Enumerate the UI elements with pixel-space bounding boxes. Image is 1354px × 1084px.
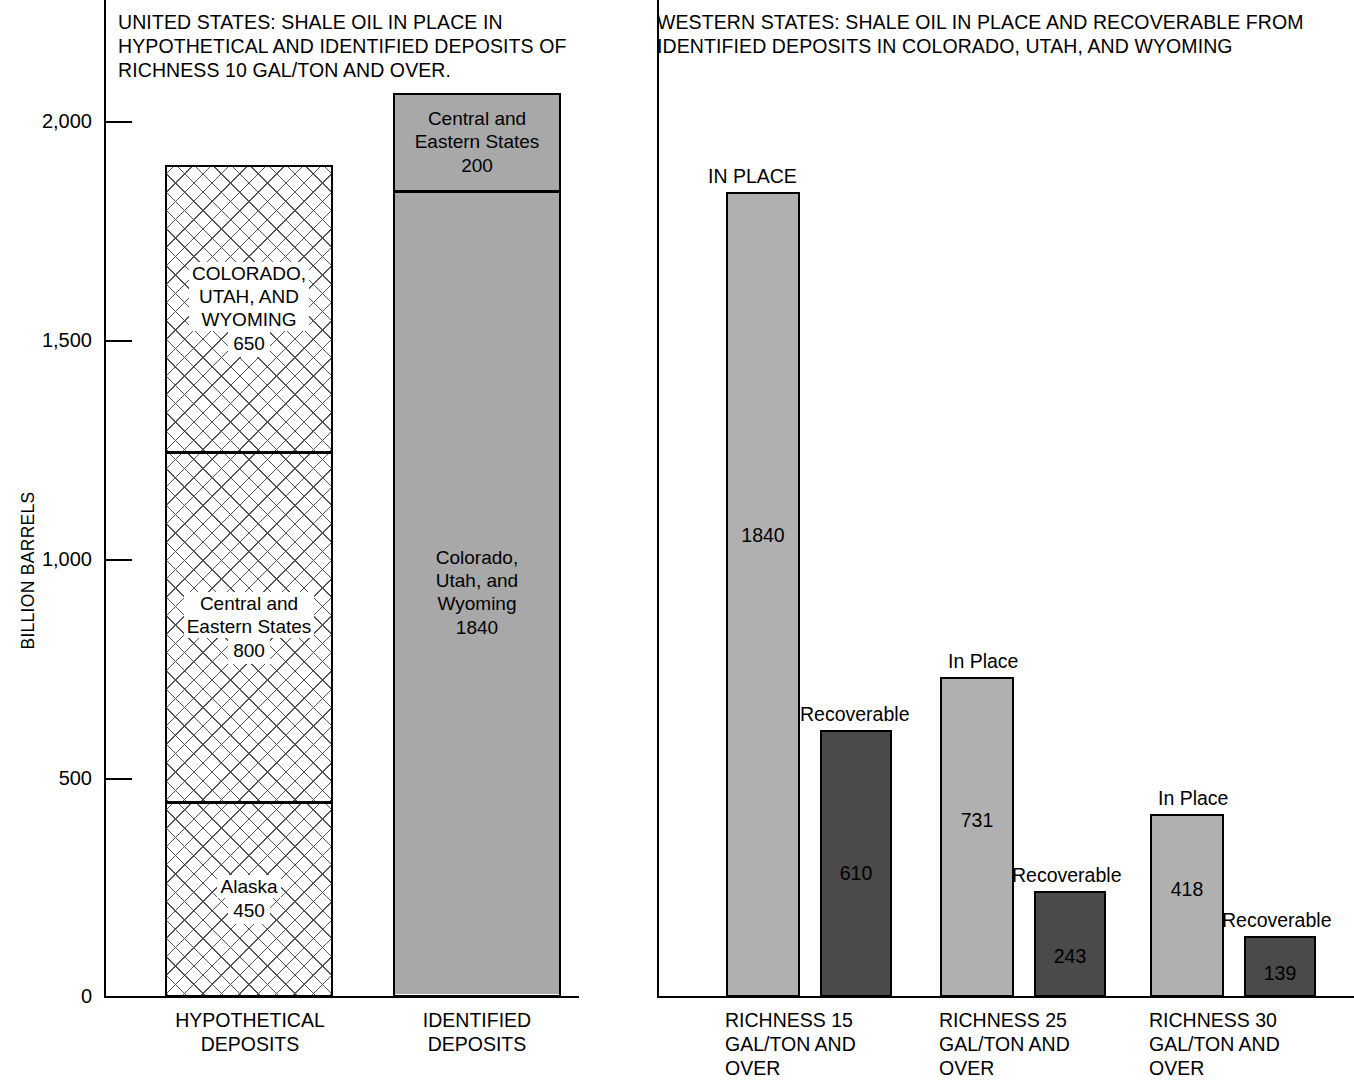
segment-central-eastern-states[interactable]: Central and Eastern States 200 bbox=[395, 95, 559, 190]
right-chart-title: WESTERN STATES: SHALE OIL IN PLACE AND R… bbox=[657, 10, 1347, 58]
segment-value: 200 bbox=[456, 153, 498, 179]
right-chart-panel: WESTERN STATES: SHALE OIL IN PLACE AND R… bbox=[640, 0, 1354, 1084]
y-tick-label-500: 500 bbox=[22, 767, 92, 790]
bar-value: 610 bbox=[822, 862, 890, 885]
bar-recoverable-richness-25[interactable]: 243 bbox=[1034, 891, 1106, 997]
segment-alaska[interactable]: Alaska 450 bbox=[167, 801, 331, 995]
bar-caption-recoverable: Recoverable bbox=[800, 703, 909, 726]
y-tick-label-1500: 1,500 bbox=[22, 329, 92, 352]
bar-value: 139 bbox=[1246, 962, 1314, 985]
segment-central-eastern-states[interactable]: Central and Eastern States 800 bbox=[167, 451, 331, 801]
left-chart-title: UNITED STATES: SHALE OIL IN PLACE IN HYP… bbox=[118, 10, 618, 82]
segment-value: 450 bbox=[228, 898, 270, 924]
bar-value: 1840 bbox=[728, 524, 798, 547]
x-label-richness-30: RICHNESS 30 GAL/TON AND OVER bbox=[1149, 1008, 1349, 1080]
bar-value: 243 bbox=[1036, 945, 1104, 968]
bar-in-place-richness-25[interactable]: 731 bbox=[940, 677, 1014, 997]
x-label-hypothetical-deposits: HYPOTHETICAL DEPOSITS bbox=[155, 1008, 345, 1056]
bar-recoverable-richness-15[interactable]: 610 bbox=[820, 730, 892, 997]
bar-caption-recoverable: Recoverable bbox=[1222, 909, 1331, 932]
segment-label: Central and Eastern States bbox=[184, 592, 315, 638]
bar-hypothetical-deposits[interactable]: COLORADO, UTAH, AND WYOMING 650 Central … bbox=[165, 165, 333, 997]
bar-caption-in-place: IN PLACE bbox=[708, 165, 797, 188]
y-axis-line-right bbox=[657, 0, 659, 997]
segment-value: 1840 bbox=[451, 615, 503, 641]
bar-caption-in-place: In Place bbox=[1158, 787, 1228, 810]
left-chart-panel: UNITED STATES: SHALE OIL IN PLACE IN HYP… bbox=[0, 0, 640, 1084]
bar-caption-recoverable: Recoverable bbox=[1012, 864, 1121, 887]
y-tick-1000 bbox=[106, 559, 132, 561]
y-tick-label-1000: 1,000 bbox=[22, 548, 92, 571]
bar-in-place-richness-30[interactable]: 418 bbox=[1150, 814, 1224, 997]
bar-in-place-richness-15[interactable]: 1840 bbox=[726, 192, 800, 997]
y-tick-0 bbox=[106, 996, 132, 998]
y-tick-label-2000: 2,000 bbox=[22, 110, 92, 133]
segment-label: COLORADO, UTAH, AND WYOMING bbox=[189, 262, 309, 331]
y-tick-500 bbox=[106, 778, 132, 780]
segment-value: 800 bbox=[228, 638, 270, 664]
y-tick-label-0: 0 bbox=[22, 985, 92, 1008]
y-axis-line bbox=[104, 0, 106, 997]
bar-caption-in-place: In Place bbox=[948, 650, 1018, 673]
bar-value: 418 bbox=[1152, 878, 1222, 901]
segment-colorado-utah-wyoming[interactable]: COLORADO, UTAH, AND WYOMING 650 bbox=[167, 167, 331, 451]
bar-recoverable-richness-30[interactable]: 139 bbox=[1244, 936, 1316, 997]
bar-identified-deposits[interactable]: Central and Eastern States 200 Colorado,… bbox=[393, 93, 561, 997]
segment-value: 650 bbox=[228, 331, 270, 357]
segment-label: Alaska bbox=[217, 875, 280, 898]
x-label-richness-25: RICHNESS 25 GAL/TON AND OVER bbox=[939, 1008, 1139, 1080]
segment-label: Colorado, Utah, and Wyoming bbox=[433, 546, 521, 615]
x-label-richness-15: RICHNESS 15 GAL/TON AND OVER bbox=[725, 1008, 925, 1080]
segment-label: Central and Eastern States bbox=[412, 107, 543, 153]
bar-value: 731 bbox=[942, 809, 1012, 832]
y-tick-1500 bbox=[106, 340, 132, 342]
x-label-identified-deposits: IDENTIFIED DEPOSITS bbox=[382, 1008, 572, 1056]
y-tick-2000 bbox=[106, 121, 132, 123]
segment-colorado-utah-wyoming[interactable]: Colorado, Utah, and Wyoming 1840 bbox=[395, 190, 559, 994]
